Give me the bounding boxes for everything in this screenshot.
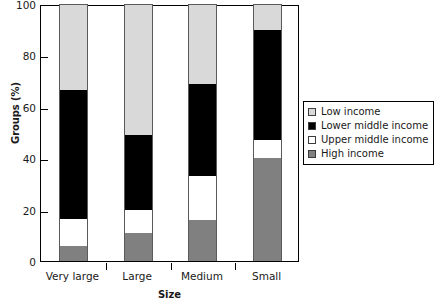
y-tick-label: 80 <box>10 51 36 61</box>
bar-segment <box>124 135 153 210</box>
y-tick-label: 40 <box>10 154 36 164</box>
bar-segment <box>59 4 88 90</box>
bar-segment <box>188 84 217 177</box>
bar-segment <box>124 210 153 233</box>
y-tick-mark <box>41 160 48 161</box>
bar-segment <box>124 4 153 135</box>
y-axis-tick-labels: 020406080100 <box>8 0 36 305</box>
y-tick-label: 20 <box>10 206 36 216</box>
bar-segment <box>59 219 88 246</box>
legend-swatch-icon <box>308 136 316 144</box>
bar-segment <box>188 220 217 261</box>
chart-legend: Low incomeLower middle incomeUpper middl… <box>303 101 434 165</box>
x-tick-label: Small <box>222 270 312 282</box>
y-tick-label: 60 <box>10 103 36 113</box>
bar-segment <box>253 140 282 158</box>
legend-label: Lower middle income <box>321 121 428 131</box>
bar-medium <box>188 6 217 261</box>
legend-label: Upper middle income <box>321 135 428 145</box>
x-tick-mark <box>171 263 172 270</box>
x-tick-mark <box>235 263 236 270</box>
bar-segment <box>253 4 282 30</box>
bar-segment <box>124 233 153 261</box>
bar-very-large <box>59 6 88 261</box>
legend-item: High income <box>308 147 428 161</box>
bar-segment <box>253 158 282 261</box>
bar-segment <box>253 30 282 141</box>
plot-inner <box>41 6 298 261</box>
bar-segment <box>59 246 88 261</box>
legend-swatch-icon <box>308 122 316 130</box>
y-tick-mark <box>41 57 48 58</box>
plot-area <box>40 5 299 262</box>
bar-segment <box>188 4 217 84</box>
bar-segment <box>59 90 88 219</box>
legend-item: Lower middle income <box>308 119 428 133</box>
x-tick-mark <box>106 263 107 270</box>
bar-small <box>253 6 282 261</box>
x-axis-title: Size <box>40 289 299 300</box>
y-tick-label: 0 <box>10 257 36 267</box>
legend-item: Upper middle income <box>308 133 428 147</box>
bar-segment <box>188 176 217 220</box>
legend-label: Low income <box>321 107 381 117</box>
legend-swatch-icon <box>308 150 316 158</box>
legend-swatch-icon <box>308 108 316 116</box>
bar-large <box>124 6 153 261</box>
y-tick-label: 100 <box>10 0 36 10</box>
y-tick-mark <box>41 109 48 110</box>
legend-item: Low income <box>308 105 428 119</box>
legend-label: High income <box>321 149 384 159</box>
y-tick-mark <box>41 212 48 213</box>
